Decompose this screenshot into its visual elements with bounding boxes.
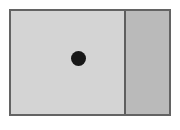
left-panel-label	[11, 11, 12, 12]
figure-caption	[0, 0, 1, 1]
diagram-frame	[9, 9, 171, 116]
left-shaded-panel	[11, 11, 124, 114]
right-panel-label	[126, 11, 127, 12]
panel-row	[11, 11, 169, 114]
right-shaded-panel	[126, 11, 169, 114]
center-dot-marker	[71, 51, 86, 66]
figure-canvas	[0, 0, 180, 130]
